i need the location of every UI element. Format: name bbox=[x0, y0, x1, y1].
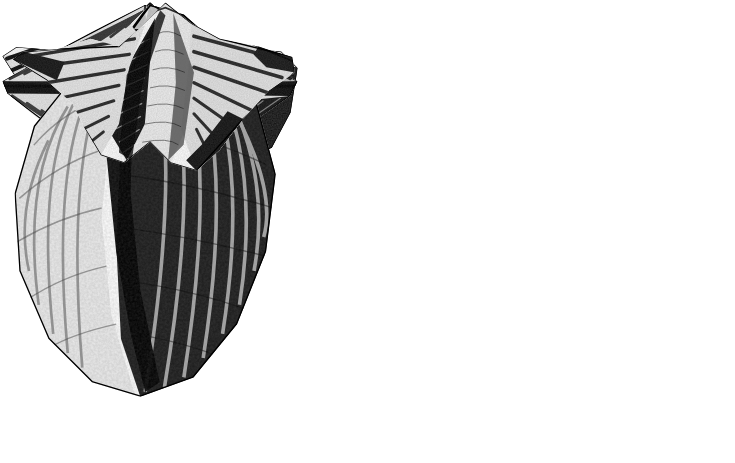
figure-posterior-cardinal-view bbox=[0, 0, 300, 194]
specimen-plate bbox=[0, 0, 735, 463]
